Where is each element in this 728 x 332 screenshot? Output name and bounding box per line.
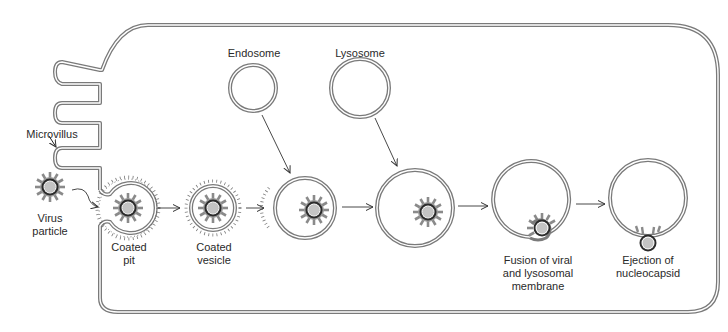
virus-particle [35, 172, 65, 202]
arrow-to-pit [72, 189, 98, 207]
arrow-endosome-fusion [262, 115, 290, 173]
ejection-label-line1: Ejection of [608, 254, 688, 267]
virus-particle-label-line1: Virus [20, 212, 80, 225]
fusion-label-line1: Fusion of viral [488, 254, 588, 267]
fusion-label: Fusion of viral and lysosomal membrane [488, 254, 588, 293]
coated-pit-label-line1: Coated [103, 241, 155, 254]
coated-vesicle-label-line2: vesicle [188, 254, 240, 267]
coated-pit-label-line2: pit [103, 254, 155, 267]
endosome-label: Endosome [222, 47, 286, 60]
arrow-lysosome-fusion [375, 118, 397, 166]
virus-particle-label-line2: particle [20, 225, 80, 238]
ejection-label: Ejection of nucleocapsid [608, 254, 688, 280]
coated-pit [97, 177, 159, 239]
coated-vesicle-label: Coated vesicle [188, 241, 240, 267]
membrane-fusion-vesicle [493, 161, 569, 240]
microvillus-label: Microvillus [22, 128, 82, 141]
lysosome [331, 59, 389, 117]
endosome-with-virus [261, 178, 335, 238]
virus-particle-label: Virus particle [20, 212, 80, 238]
lysosome-with-virus [377, 170, 453, 246]
endosome [230, 65, 276, 111]
coated-vesicle-label-line1: Coated [188, 241, 240, 254]
ejection-label-line2: nucleocapsid [608, 267, 688, 280]
coated-vesicle [186, 181, 240, 235]
lysosome-label: Lysosome [328, 47, 392, 60]
coated-pit-label: Coated pit [103, 241, 155, 267]
ejection-vesicle [610, 160, 686, 252]
fusion-label-line3: membrane [488, 280, 588, 293]
fusion-label-line2: and lysosomal [488, 267, 588, 280]
